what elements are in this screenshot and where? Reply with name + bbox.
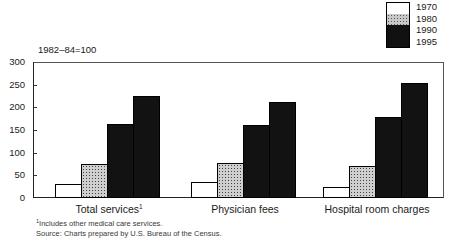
- legend-label-1990: 1990: [416, 24, 460, 36]
- x-axis-label-2: Hospital room charges: [311, 203, 443, 215]
- bar-1990-1: [243, 125, 270, 198]
- y-axis-tick-mark-50: [33, 175, 37, 176]
- bar-1970-0: [55, 184, 82, 198]
- bar-1980-1: [217, 163, 244, 198]
- y-axis-tick-mark-250: [33, 85, 37, 86]
- x-axis-label-1: Physician fees: [179, 203, 311, 215]
- y-axis-tick-mark-150: [33, 130, 37, 131]
- y-axis-tick-label-150: 150: [9, 124, 25, 135]
- y-axis-tick-label-0: 0: [20, 192, 25, 203]
- plot-area: 050100150200250300: [33, 62, 444, 198]
- bar-1980-2: [349, 166, 376, 198]
- y-axis-tick-label-250: 250: [9, 79, 25, 90]
- legend-label-list: 1970 1980 1990 1995: [416, 1, 460, 47]
- legend-label-1970: 1970: [416, 1, 460, 13]
- legend-swatch-1980: [387, 14, 409, 25]
- chart-legend: 1970 1980 1990 1995: [386, 2, 460, 52]
- bar-stack-0: [55, 62, 163, 198]
- footnote-note: 1Includes other medical care services.: [36, 219, 222, 229]
- bar-stack-1: [191, 62, 299, 198]
- x-axis-label-footnote-marker: 1: [139, 203, 143, 210]
- bar-1990-2: [375, 117, 402, 198]
- chart-footnotes: 1Includes other medical care services. S…: [36, 219, 222, 238]
- legend-swatch-1990: [387, 25, 409, 36]
- medical-care-price-index-chart: 1970 1980 1990 1995 1982–84=100 05010015…: [0, 0, 462, 249]
- index-base-note: 1982–84=100: [38, 44, 96, 55]
- bar-group-2: [323, 62, 431, 198]
- legend-swatch-1995: [387, 36, 409, 47]
- bar-1970-2: [323, 187, 350, 198]
- bar-1995-0: [133, 96, 160, 198]
- bar-group-0: [55, 62, 163, 198]
- legend-swatch-stack: [386, 2, 410, 48]
- bar-1990-0: [107, 124, 134, 198]
- legend-swatch-1970: [387, 3, 409, 14]
- y-axis-tick-label-300: 300: [9, 56, 25, 67]
- y-axis-tick-label-200: 200: [9, 101, 25, 112]
- y-axis-tick-label-50: 50: [14, 169, 25, 180]
- legend-label-1995: 1995: [416, 36, 460, 48]
- bar-1980-0: [81, 164, 108, 198]
- bar-1970-1: [191, 182, 218, 198]
- bar-1995-1: [269, 102, 296, 198]
- bar-group-1: [191, 62, 299, 198]
- footnote-note-text: Includes other medical care services.: [39, 219, 162, 228]
- x-axis-label-0: Total services1: [43, 203, 175, 215]
- y-axis-tick-mark-100: [33, 153, 37, 154]
- y-axis-tick-label-100: 100: [9, 147, 25, 158]
- footnote-source: Source: Charts prepared by U.S. Bureau o…: [36, 229, 222, 239]
- y-axis-tick-mark-200: [33, 107, 37, 108]
- bar-1995-2: [401, 83, 428, 198]
- bar-stack-2: [323, 62, 431, 198]
- legend-label-1980: 1980: [416, 13, 460, 25]
